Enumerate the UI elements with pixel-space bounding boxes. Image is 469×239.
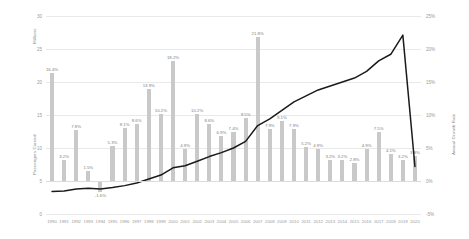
secondary-y-axis-tick: 5% [426, 146, 444, 151]
line-series [46, 16, 421, 214]
x-axis-tick: 1992 [71, 219, 81, 224]
x-axis-tick: 2017 [374, 219, 384, 224]
secondary-y-axis-tick: 15% [426, 80, 444, 85]
y-axis-tick: 30 [26, 14, 42, 19]
x-axis-tick: 2003 [205, 219, 215, 224]
secondary-y-axis-tick: 10% [426, 113, 444, 118]
y-axis-title: Passengers Carried [32, 134, 37, 175]
x-axis-tick: 2012 [313, 219, 323, 224]
x-axis-tick: 2020 [410, 219, 420, 224]
passengers-line [52, 35, 415, 191]
combo-chart: Millions Passengers Carried Annual Growt… [0, 0, 469, 239]
x-axis-tick: 1990 [47, 219, 57, 224]
y-axis-tick: 10 [26, 146, 42, 151]
y-axis-tick: 20 [26, 80, 42, 85]
x-axis-tick: 1991 [59, 219, 69, 224]
x-axis-tick: 2000 [168, 219, 178, 224]
x-axis-tick: 2008 [265, 219, 275, 224]
x-axis-tick: 2009 [277, 219, 287, 224]
y-axis-tick: 25 [26, 47, 42, 52]
x-axis-tick: 2015 [350, 219, 360, 224]
x-axis-tick: 1993 [84, 219, 94, 224]
x-axis-tick: 2011 [301, 219, 310, 224]
secondary-y-axis-title: Annual Growth Rate [451, 114, 456, 155]
zero-baseline [46, 181, 421, 182]
x-axis-tick: 2006 [241, 219, 251, 224]
y-axis-tick: 5 [26, 179, 42, 184]
y-axis-tick: 0 [26, 212, 42, 217]
x-axis-tick: 2019 [398, 219, 408, 224]
y-axis-tick: 15 [26, 113, 42, 118]
x-axis-tick: 1998 [144, 219, 154, 224]
x-axis-tick: 2014 [338, 219, 348, 224]
x-axis-tick: 2016 [362, 219, 372, 224]
x-axis-tick: 2013 [326, 219, 336, 224]
secondary-y-axis-tick: 25% [426, 14, 444, 19]
secondary-y-axis-tick: 0% [426, 179, 444, 184]
x-axis-tick: 2018 [386, 219, 396, 224]
secondary-y-axis-tick: 20% [426, 47, 444, 52]
x-axis-tick: 2002 [192, 219, 202, 224]
plot-area: 16.4%3.2%7.8%1.5%-1.6%5.3%8.1%8.6%13.9%1… [46, 16, 421, 214]
gridline [46, 214, 421, 215]
x-axis-tick: 2004 [217, 219, 227, 224]
x-axis-tick: 1996 [120, 219, 130, 224]
x-axis-tick: 2005 [229, 219, 239, 224]
x-axis-tick: 2001 [180, 219, 190, 224]
x-axis-tick: 2010 [289, 219, 299, 224]
x-axis-tick: 1999 [156, 219, 166, 224]
x-axis-tick: 1995 [108, 219, 118, 224]
x-axis-tick: 1997 [132, 219, 142, 224]
x-axis-tick: 1994 [96, 219, 106, 224]
y-axis-unit-label: Millions [32, 29, 37, 44]
secondary-y-axis-tick: -5% [426, 212, 444, 217]
x-axis-tick: 2007 [253, 219, 263, 224]
